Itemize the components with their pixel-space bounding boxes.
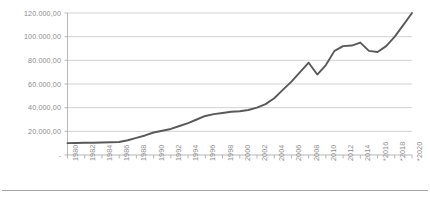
y-axis-tick-label: 20.000,00 <box>5 127 61 136</box>
x-axis-tick-label: 2002 <box>260 145 269 161</box>
x-axis-tick-label: 2004 <box>277 145 286 161</box>
x-axis-tick-label: 1984 <box>105 145 114 161</box>
x-axis-tick-label: 1982 <box>88 145 97 161</box>
x-axis-tick-label: 1992 <box>174 145 183 161</box>
x-axis-tick-label: *2020 <box>415 142 424 161</box>
x-axis-tick-label: 2012 <box>346 145 355 161</box>
x-axis-tick-label: 1980 <box>71 145 80 161</box>
x-axis-tick-label: *2018 <box>398 142 407 161</box>
x-axis-tick-label: *2016 <box>381 142 390 161</box>
x-axis-tick-label: 2008 <box>312 145 321 161</box>
x-axis-tick-label: 1986 <box>122 145 131 161</box>
y-axis-tick-label: 40.000,00 <box>5 103 61 112</box>
x-axis-tick-label: 2000 <box>243 145 252 161</box>
y-axis-tick-label: 80.000,00 <box>5 56 61 65</box>
x-axis-tick-label: 1996 <box>208 145 217 161</box>
x-axis-tick-label: 1988 <box>139 145 148 161</box>
x-axis-tick-label: 2010 <box>329 145 338 161</box>
x-axis-tick-label: 2014 <box>363 145 372 161</box>
data-series-line <box>68 13 413 143</box>
y-axis-tick-label: - <box>5 151 61 160</box>
x-axis-tick-label: 1998 <box>226 145 235 161</box>
y-axis-tick-label: 60.000,00 <box>5 80 61 89</box>
y-axis-tick-label: 120.000,00 <box>5 9 61 18</box>
y-axis-tick-label: 100.000,00 <box>5 32 61 41</box>
x-axis-tick-label: 2006 <box>294 145 303 161</box>
x-axis-tick-label: 1994 <box>191 145 200 161</box>
chart-canvas <box>0 0 430 199</box>
line-chart: -20.000,0040.000,0060.000,0080.000,00100… <box>0 0 430 199</box>
bottom-divider <box>2 190 428 191</box>
x-axis-tick-label: 1990 <box>157 145 166 161</box>
